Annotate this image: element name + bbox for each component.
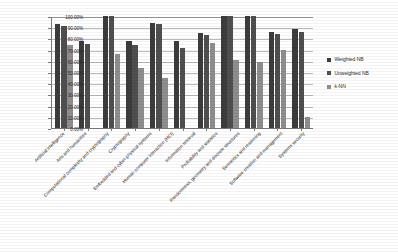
bar-group	[171, 17, 195, 128]
y-axis-tick-mark	[48, 73, 51, 74]
bar	[150, 23, 155, 128]
plot-area	[51, 17, 313, 129]
legend-item[interactable]: Weighted NB	[327, 57, 369, 62]
bar	[198, 33, 203, 128]
y-axis-tick-label: 70.00%	[37, 48, 83, 53]
bar	[132, 45, 137, 128]
bar-group	[147, 17, 171, 128]
bar	[138, 68, 143, 128]
bar-group	[289, 17, 313, 128]
y-axis-tick-label: 100.00%	[37, 15, 83, 20]
bar-chart: 100.00%90.00%80.00%70.00%60.00%50.00%40.…	[0, 0, 398, 252]
bar-group	[99, 17, 123, 128]
y-axis-tick-label: 20.00%	[37, 104, 83, 109]
legend-label: Unweighted NB	[335, 71, 369, 76]
legend-label: Weighted NB	[335, 57, 364, 62]
x-axis-labels: Artificial intelligenceArts and humaniti…	[51, 131, 313, 249]
bar	[305, 117, 310, 128]
bar	[299, 32, 304, 128]
bar-group	[123, 17, 147, 128]
y-axis-tick-mark	[48, 28, 51, 29]
chart-legend: Weighted NBUnweighted NBk-NN	[327, 57, 369, 89]
bar	[174, 41, 179, 128]
bar	[251, 16, 256, 128]
bar	[245, 16, 250, 128]
x-axis-tick-label: Semantics and reasoning	[222, 131, 263, 172]
bar	[210, 43, 215, 128]
bar-group	[266, 17, 290, 128]
y-axis-tick-mark	[48, 129, 51, 130]
bar	[233, 60, 238, 128]
bar-groups	[52, 17, 313, 128]
y-axis-tick-mark	[48, 39, 51, 40]
y-axis-tick-mark	[48, 17, 51, 18]
y-axis-tick-mark	[48, 62, 51, 63]
bar	[221, 16, 226, 128]
bar	[269, 32, 274, 128]
bar-group	[194, 17, 218, 128]
y-axis-tick-mark	[48, 95, 51, 96]
legend-item[interactable]: Unweighted NB	[327, 71, 369, 76]
y-axis-tick-label: 50.00%	[37, 71, 83, 76]
legend-swatch-icon	[327, 71, 331, 75]
y-axis-tick-mark	[48, 107, 51, 108]
y-axis-tick-label: 90.00%	[37, 26, 83, 31]
legend-swatch-icon	[327, 85, 331, 89]
bar	[281, 50, 286, 128]
legend-swatch-icon	[327, 58, 331, 62]
bar	[103, 16, 108, 128]
bar	[204, 35, 209, 128]
bar	[85, 44, 90, 128]
bar	[227, 16, 232, 128]
bar	[156, 24, 161, 128]
y-axis-tick-mark	[48, 84, 51, 85]
bar	[109, 16, 114, 128]
bar	[126, 41, 131, 128]
bar	[180, 48, 185, 128]
bar	[115, 54, 120, 128]
legend-label: k-NN	[335, 84, 346, 89]
y-axis-tick-mark	[48, 118, 51, 119]
bar	[292, 29, 297, 128]
bar	[162, 78, 167, 128]
bar-group	[242, 17, 266, 128]
bar	[257, 62, 262, 128]
y-axis-tick-mark	[48, 51, 51, 52]
bar-group	[218, 17, 242, 128]
y-axis-tick-label: 80.00%	[37, 37, 83, 42]
legend-item[interactable]: k-NN	[327, 84, 369, 89]
y-axis-tick-label: 30.00%	[37, 93, 83, 98]
y-axis-tick-label: 60.00%	[37, 59, 83, 64]
y-axis-tick-label: 40.00%	[37, 82, 83, 87]
bar	[275, 34, 280, 128]
y-axis-tick-label: 10.00%	[37, 115, 83, 120]
